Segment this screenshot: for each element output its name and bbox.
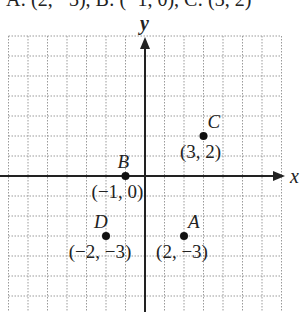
- point-c: C(3, 2): [180, 111, 221, 163]
- point-name-label: A: [186, 211, 200, 232]
- point-marker: [180, 232, 188, 240]
- point-coordinate-label: (−1, 0): [92, 181, 144, 203]
- point-marker: [200, 132, 208, 140]
- point-name-label: C: [208, 111, 221, 132]
- point-coordinate-label: (2, −3): [156, 241, 208, 263]
- x-axis-label: x: [289, 165, 299, 187]
- coordinate-plane: x y A(2, −3)B(−1, 0)C(3, 2)D(−2, −3): [0, 0, 304, 312]
- y-axis-arrow-icon: [140, 37, 150, 49]
- point-name-label: D: [93, 211, 108, 232]
- point-marker: [102, 232, 110, 240]
- axes: x y: [0, 12, 299, 312]
- point-coordinate-label: (−2, −3): [69, 241, 132, 263]
- x-axis-arrow-icon: [273, 171, 285, 181]
- point-a: A(2, −3): [156, 211, 208, 263]
- point-name-label: B: [118, 151, 130, 172]
- point-marker: [122, 172, 130, 180]
- coordinate-plane-figure: A: (2, −3), B: (−1, 0), C: (3, 2) x y A(…: [0, 0, 304, 312]
- y-axis-label: y: [138, 12, 149, 35]
- point-d: D(−2, −3): [69, 211, 132, 263]
- point-coordinate-label: (3, 2): [180, 141, 221, 163]
